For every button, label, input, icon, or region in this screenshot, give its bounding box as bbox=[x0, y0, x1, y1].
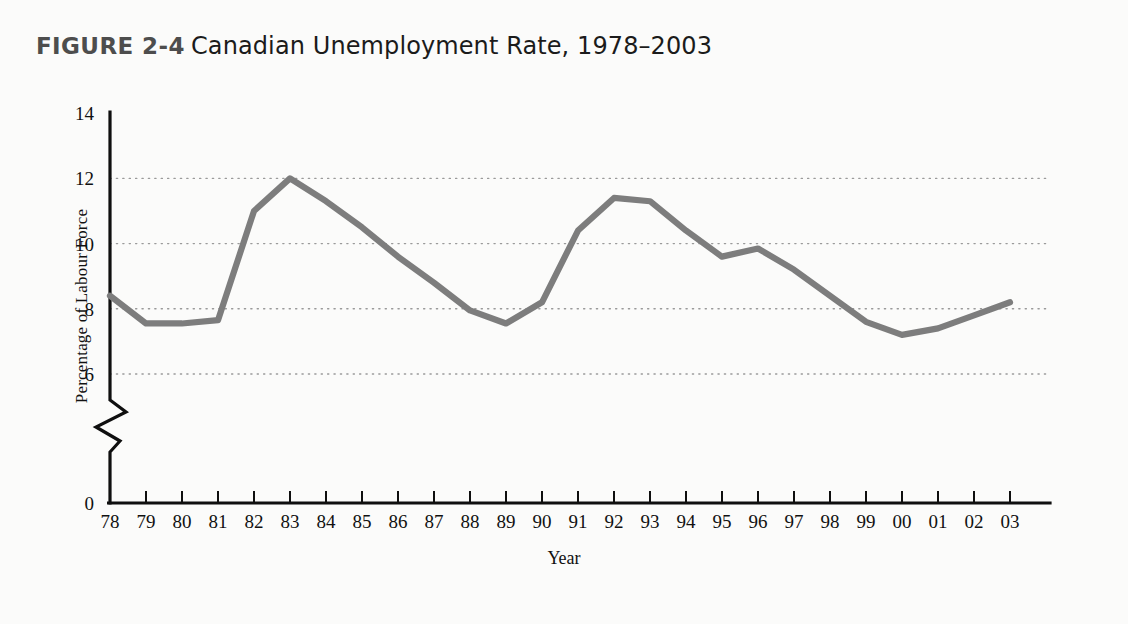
x-axis-tick-label: 83 bbox=[281, 511, 300, 532]
x-axis-tick-label: 85 bbox=[353, 511, 372, 532]
y-axis-tick-label: 0 bbox=[85, 493, 95, 514]
x-axis-title: Year bbox=[0, 548, 1128, 569]
x-axis-tick-label: 92 bbox=[605, 511, 624, 532]
x-axis-tick-label: 82 bbox=[245, 511, 264, 532]
x-axis-tick-label: 01 bbox=[929, 511, 948, 532]
chart-canvas: 0681012147879808182838485868788899091929… bbox=[0, 0, 1128, 624]
x-axis-tick-label: 80 bbox=[173, 511, 192, 532]
x-axis-tick-label: 03 bbox=[1001, 511, 1020, 532]
x-axis-tick-label: 94 bbox=[677, 511, 697, 532]
x-axis-tick-label: 91 bbox=[569, 511, 588, 532]
x-axis-tick-label: 02 bbox=[965, 511, 984, 532]
x-axis-tick-label: 97 bbox=[785, 511, 804, 532]
x-axis-tick-label: 88 bbox=[461, 511, 480, 532]
figure-container: FIGURE 2-4 Canadian Unemployment Rate, 1… bbox=[0, 0, 1128, 624]
x-axis-tick-label: 84 bbox=[317, 511, 337, 532]
data-series-line bbox=[110, 178, 1010, 334]
y-axis-tick-label: 14 bbox=[75, 103, 95, 124]
x-axis-tick-label: 95 bbox=[713, 511, 732, 532]
x-axis-tick-label: 86 bbox=[389, 511, 408, 532]
x-axis-tick-label: 00 bbox=[893, 511, 912, 532]
x-axis-tick-label: 89 bbox=[497, 511, 516, 532]
x-axis-tick-label: 93 bbox=[641, 511, 660, 532]
x-axis-tick-label: 87 bbox=[425, 511, 444, 532]
x-axis-tick-label: 98 bbox=[821, 511, 840, 532]
x-axis-tick-label: 79 bbox=[137, 511, 156, 532]
y-axis-title: Percentage of Labour Force bbox=[72, 161, 92, 451]
x-axis-tick-label: 96 bbox=[749, 511, 768, 532]
x-axis-tick-label: 78 bbox=[101, 511, 120, 532]
x-axis-tick-label: 90 bbox=[533, 511, 552, 532]
line-chart-plot: 0681012147879808182838485868788899091929… bbox=[0, 0, 1128, 624]
x-axis-tick-label: 99 bbox=[857, 511, 876, 532]
x-axis-tick-label: 81 bbox=[209, 511, 228, 532]
